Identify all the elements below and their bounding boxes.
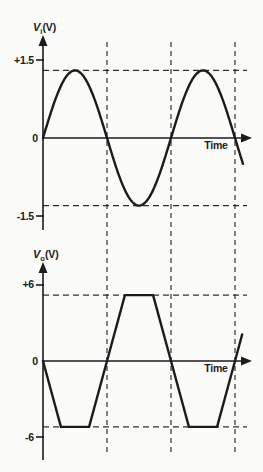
time-axis-title: Time: [204, 362, 228, 374]
figure-canvas: +1.50-1.5Vi(V)Time+60-6Vo(V)Time: [0, 0, 263, 472]
ytick-label: +6: [22, 278, 34, 290]
time-axis-title: Time: [204, 139, 228, 151]
origin-zero-label: 0: [32, 132, 38, 144]
ytick-label: -1.5: [17, 210, 35, 222]
ytick-label: +1.5: [14, 54, 34, 66]
origin-zero-label: 0: [32, 355, 38, 367]
ytick-label: -6: [25, 431, 34, 443]
waveform-figure: +1.50-1.5Vi(V)Time+60-6Vo(V)Time: [0, 0, 263, 472]
